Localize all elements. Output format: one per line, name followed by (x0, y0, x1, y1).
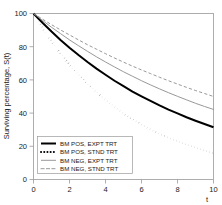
legend-item-label: BM NEG, STND TRT (60, 165, 118, 172)
x-tick-label: 8 (175, 185, 179, 194)
legend: BM POS, EXPT TRTBM POS, STND TRTBM NEG, … (38, 137, 133, 174)
series-line-0 (34, 14, 214, 128)
series-line-1 (34, 14, 214, 154)
legend-item-label: BM NEG, EXPT TRT (60, 157, 118, 164)
y-tick-label: 60 (19, 76, 27, 85)
y-tick-label: 100 (14, 9, 27, 18)
survival-curve-figure: 020406080100 0246810 Surviving percentag… (0, 0, 222, 205)
x-tick-label: 10 (209, 185, 217, 194)
chart-canvas: 020406080100 0246810 Surviving percentag… (0, 0, 222, 205)
x-axis-title: t (206, 195, 209, 204)
legend-item-label: BM POS, STND TRT (60, 148, 118, 155)
legend-item-label: BM POS, EXPT TRT (60, 140, 117, 147)
y-axis: 020406080100 (14, 9, 33, 184)
y-tick-label: 80 (19, 43, 27, 52)
x-tick-label: 0 (31, 185, 35, 194)
x-axis: 0246810 (31, 180, 217, 195)
x-tick-label: 6 (139, 185, 143, 194)
y-axis-title: Surviving percentage, S(t) (2, 52, 11, 139)
y-tick-label: 40 (19, 109, 27, 118)
x-tick-label: 2 (67, 185, 71, 194)
series-line-2 (34, 14, 214, 110)
y-tick-label: 0 (23, 175, 27, 184)
series-line-3 (34, 14, 214, 97)
y-tick-label: 20 (19, 142, 27, 151)
data-series-group (34, 14, 214, 154)
x-tick-label: 4 (103, 185, 107, 194)
